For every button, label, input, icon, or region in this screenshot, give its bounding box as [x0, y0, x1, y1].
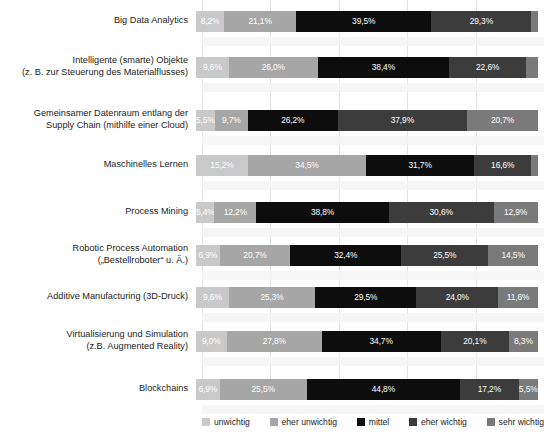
segment-value-label: 5,5% — [519, 385, 538, 394]
legend-label: unwichtig — [214, 417, 250, 427]
segment-value-label: 39,5% — [352, 17, 375, 26]
segment-value-label: 9,0% — [202, 337, 221, 346]
segment-value-label: 29,3% — [470, 17, 493, 26]
category-label: Blockchains — [0, 383, 196, 395]
segment-value-label: 34,7% — [370, 337, 393, 346]
bar-segment: 12,2% — [214, 202, 256, 223]
category-label: Process Mining — [0, 206, 196, 218]
segment-value-label: 17,2% — [478, 385, 501, 394]
bar-segment — [531, 155, 538, 176]
bar-segment — [526, 57, 538, 78]
bar-segment: 5,5% — [196, 110, 215, 131]
bar-segment: 38,8% — [256, 202, 389, 223]
legend-swatch-icon — [202, 418, 210, 426]
scan-artifact — [202, 405, 544, 414]
stacked-bar: 8,2%21,1%39,5%29,3% — [196, 11, 544, 32]
segment-value-label: 26,2% — [281, 116, 304, 125]
segment-value-label: 21,1% — [248, 17, 271, 26]
chart-row: Process Mining5,4%12,2%38,8%30,6%12,9% — [0, 202, 544, 223]
segment-value-label: 8,3% — [514, 337, 533, 346]
bar-segment: 16,6% — [474, 155, 531, 176]
chart-row: Additive Manufacturing (3D-Druck)9,6%25,… — [0, 287, 544, 308]
segment-value-label: 24,0% — [446, 293, 469, 302]
chart-row: Robotic Process Automation („Bestellrobo… — [0, 245, 544, 266]
bar-segment: 29,3% — [431, 11, 531, 32]
bar-segment: 38,4% — [318, 57, 449, 78]
stacked-bar-chart: Big Data Analytics8,2%21,1%39,5%29,3%Int… — [0, 0, 544, 437]
bar-segment: 20,7% — [467, 110, 538, 131]
bar-segment: 9,7% — [215, 110, 248, 131]
segment-value-label: 44,8% — [372, 385, 395, 394]
segment-value-label: 25,5% — [433, 251, 456, 260]
segment-value-label: 15,2% — [210, 161, 233, 170]
bar-segment: 32,4% — [290, 245, 401, 266]
bar-segment: 11,6% — [498, 287, 538, 308]
segment-value-label: 32,4% — [334, 251, 357, 260]
segment-value-label: 12,9% — [504, 208, 527, 217]
bar-segment: 26,2% — [248, 110, 338, 131]
chart-row: Big Data Analytics8,2%21,1%39,5%29,3% — [0, 11, 544, 32]
bar-segment — [531, 11, 537, 32]
legend-item[interactable]: eher wichtig — [409, 417, 467, 427]
segment-value-label: 11,6% — [507, 293, 530, 302]
category-label: Big Data Analytics — [0, 15, 196, 27]
legend-label: sehr wichtig — [499, 417, 544, 427]
bar-segment: 20,1% — [441, 331, 510, 352]
segment-value-label: 27,8% — [263, 337, 286, 346]
bar-segment: 27,8% — [227, 331, 322, 352]
chart-row: Virtualisierung und Simulation (z.B. Aug… — [0, 331, 544, 352]
bar-segment: 30,6% — [389, 202, 494, 223]
bar-segment: 5,4% — [196, 202, 214, 223]
bar-segment: 39,5% — [296, 11, 431, 32]
chart-row: Gemeinsamer Datenraum entlang der Supply… — [0, 110, 544, 131]
legend-item[interactable]: unwichtig — [202, 417, 250, 427]
stacked-bar: 5,4%12,2%38,8%30,6%12,9% — [196, 202, 544, 223]
bar-segment: 8,2% — [196, 11, 224, 32]
bar-segment: 9,6% — [196, 57, 229, 78]
legend-swatch-icon — [409, 418, 417, 426]
bar-segment: 29,5% — [315, 287, 416, 308]
category-label: Gemeinsamer Datenraum entlang der Supply… — [0, 108, 196, 131]
category-label: Robotic Process Automation („Bestellrobo… — [0, 243, 196, 266]
bar-segment: 12,9% — [494, 202, 538, 223]
bar-segment: 5,5% — [519, 379, 538, 400]
legend-label: eher wichtig — [421, 417, 467, 427]
chart-row: Maschinelles Lernen15,2%34,5%31,7%16,6% — [0, 155, 544, 176]
bar-segment: 17,2% — [460, 379, 519, 400]
segment-value-label: 14,5% — [502, 251, 525, 260]
chart-plot-area: Big Data Analytics8,2%21,1%39,5%29,3%Int… — [0, 0, 544, 400]
segment-value-label: 25,5% — [252, 385, 275, 394]
legend-item[interactable]: sehr wichtig — [487, 417, 544, 427]
bar-segment: 34,7% — [322, 331, 441, 352]
segment-value-label: 16,6% — [491, 161, 514, 170]
bar-segment: 6,9% — [196, 379, 220, 400]
segment-value-label: 20,7% — [243, 251, 266, 260]
bar-segment: 20,7% — [220, 245, 291, 266]
segment-value-label: 5,5% — [196, 116, 215, 125]
stacked-bar: 6,9%25,5%44,8%17,2%5,5% — [196, 379, 544, 400]
segment-value-label: 5,4% — [196, 208, 214, 217]
bar-segment: 25,5% — [401, 245, 488, 266]
legend-item[interactable]: mittel — [357, 417, 390, 427]
segment-value-label: 29,5% — [354, 293, 377, 302]
segment-value-label: 34,5% — [295, 161, 318, 170]
segment-value-label: 9,6% — [203, 293, 222, 302]
category-label: Additive Manufacturing (3D-Druck) — [0, 291, 196, 303]
segment-value-label: 30,6% — [430, 208, 453, 217]
stacked-bar: 9,6%26,0%38,4%22,6% — [196, 57, 544, 78]
legend-item[interactable]: eher unwichtig — [270, 417, 337, 427]
segment-value-label: 12,2% — [224, 208, 247, 217]
segment-value-label: 8,2% — [201, 17, 220, 26]
stacked-bar: 6,9%20,7%32,4%25,5%14,5% — [196, 245, 544, 266]
stacked-bar: 15,2%34,5%31,7%16,6% — [196, 155, 544, 176]
bar-segment: 14,5% — [488, 245, 538, 266]
chart-row: Intelligente (smarte) Objekte (z. B. zur… — [0, 57, 544, 78]
segment-value-label: 20,7% — [491, 116, 514, 125]
segment-value-label: 38,8% — [311, 208, 334, 217]
bar-segment: 25,5% — [220, 379, 307, 400]
chart-legend: unwichtigeher unwichtigmitteleher wichti… — [202, 414, 544, 430]
segment-value-label: 26,0% — [262, 63, 285, 72]
bar-segment: 9,0% — [196, 331, 227, 352]
bar-segment: 31,7% — [366, 155, 474, 176]
segment-value-label: 25,3% — [260, 293, 283, 302]
